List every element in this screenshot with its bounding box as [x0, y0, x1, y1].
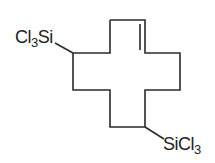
ring-bonds [73, 20, 180, 127]
bond-to-bottom-right-silyl [145, 127, 164, 139]
label-prefix: SiCl [163, 134, 194, 154]
label-suffix: Si [38, 27, 53, 47]
bond-to-top-left-silyl [55, 43, 73, 53]
trichlorosilyl-label-top-left: Cl3Si [15, 28, 53, 46]
label-subscript: 3 [31, 35, 38, 50]
trichlorosilyl-label-bottom-right: SiCl3 [163, 135, 201, 153]
label-prefix: Cl [15, 27, 31, 47]
label-subscript: 3 [194, 142, 201, 157]
